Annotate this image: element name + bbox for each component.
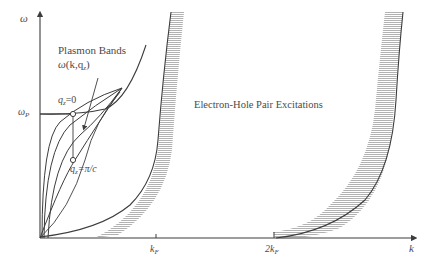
qz0-label: qz=0 xyxy=(58,94,76,107)
2kf-label: 2kF xyxy=(265,243,279,256)
electron-hole-label: Electron-Hole Pair Excitations xyxy=(194,99,323,110)
diagram-canvas xyxy=(0,0,430,262)
eh-continuum-band-2 xyxy=(273,12,403,238)
k-axis-label: k xyxy=(409,242,414,254)
kf-label: kF xyxy=(150,243,159,256)
plasmon-bands-title: Plasmon Bands xyxy=(58,44,126,56)
omega-axis-label: ω xyxy=(20,12,28,24)
qz0-point xyxy=(70,111,75,116)
qzpi-point xyxy=(70,157,75,162)
omega-p-label: ωP xyxy=(18,106,29,119)
plasmon-function-label: ωω(k,q(k,qz) xyxy=(58,58,90,72)
dispersion-diagram: ω ωP kF 2kF k Plasmon Bands ωω(k,q(k,qz)… xyxy=(0,0,430,262)
qzpi-label: qz=π/c xyxy=(70,163,97,176)
